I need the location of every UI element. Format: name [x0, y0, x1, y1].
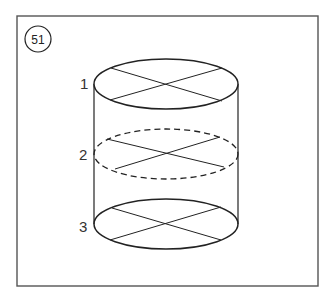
level-label-1: 1 [80, 75, 88, 92]
middle-cross-line-b [115, 137, 220, 169]
middle-ellipse-dashed [94, 129, 238, 179]
level-3-cross-section [94, 199, 238, 249]
level-2-cross-section [94, 129, 238, 179]
level-label-2: 2 [79, 146, 87, 163]
figure-number: 51 [31, 33, 45, 47]
figure-frame [17, 16, 318, 286]
level-1-cross-section [94, 59, 238, 109]
bottom-cross-line-a [112, 208, 221, 240]
level-label-3: 3 [79, 218, 87, 235]
figure-number-badge: 51 [25, 26, 51, 52]
middle-cross-line-a [107, 139, 224, 167]
diagram-canvas: 51 1 2 3 [0, 0, 334, 303]
